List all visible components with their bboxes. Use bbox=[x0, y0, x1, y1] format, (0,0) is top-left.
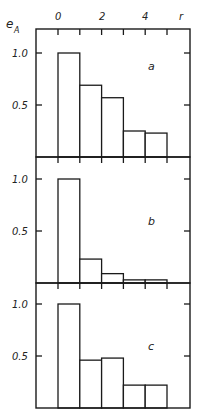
y-axis-label: e A bbox=[6, 17, 19, 35]
y-tick-label: 1.0 bbox=[12, 48, 28, 59]
x-tick-label-2: 2 bbox=[99, 11, 105, 22]
bar-b-2 bbox=[102, 274, 124, 283]
bar-c-0 bbox=[58, 304, 80, 408]
y-tick-label: 0.5 bbox=[12, 226, 28, 237]
bar-a-0 bbox=[58, 53, 80, 157]
panel-label-a: a bbox=[148, 60, 155, 73]
bar-b-1 bbox=[80, 259, 102, 283]
y-tick-label: 1.0 bbox=[12, 174, 28, 185]
bar-b-0 bbox=[58, 179, 80, 283]
bar-a-2 bbox=[102, 98, 124, 157]
histogram-figure: 0 2 4 r e A 1.00.5a1.00.5b1.00.5c bbox=[0, 0, 201, 420]
y-tick-label: 1.0 bbox=[12, 299, 28, 310]
y-axis-label-sub: A bbox=[13, 26, 19, 35]
x-tick-label-0: 0 bbox=[55, 11, 61, 22]
bar-c-2 bbox=[102, 358, 124, 408]
bar-a-3 bbox=[123, 131, 145, 157]
y-tick-label: 0.5 bbox=[12, 351, 28, 362]
panel-label-b: b bbox=[148, 215, 155, 228]
y-axis-label-main: e bbox=[6, 17, 13, 31]
top-x-axis: 0 2 4 r bbox=[55, 11, 184, 22]
x-axis-label: r bbox=[179, 11, 184, 22]
x-tick-label-4: 4 bbox=[142, 11, 148, 22]
bar-a-1 bbox=[80, 85, 102, 157]
bar-c-3 bbox=[123, 385, 145, 408]
bar-a-4 bbox=[145, 133, 167, 157]
y-tick-label: 0.5 bbox=[12, 100, 28, 111]
panel-c: 1.00.5c bbox=[12, 283, 190, 408]
bar-c-4 bbox=[145, 385, 167, 408]
panel-a: 1.00.5a bbox=[12, 29, 190, 157]
panel-b: 1.00.5b bbox=[12, 157, 190, 283]
panel-label-c: c bbox=[148, 340, 154, 353]
bar-c-1 bbox=[80, 360, 102, 408]
